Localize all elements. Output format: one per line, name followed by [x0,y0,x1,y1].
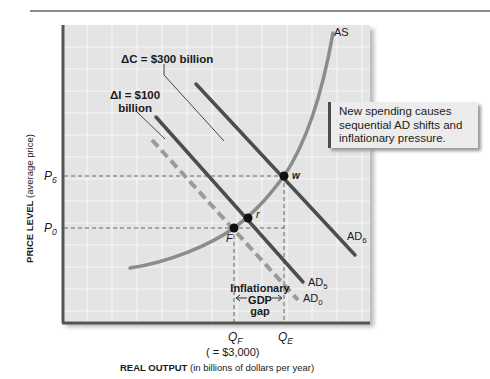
x-axis-title: REAL OUTPUT (in billions of dollars per … [120,362,314,373]
point-r [244,214,253,223]
y-tick-p0: P0 [44,221,57,237]
inflationary-gap-label: Inflationary GDP gap [228,283,292,318]
delta-i-annotation: ΔI = $100 billion [110,89,160,115]
point-w-label: w [292,170,300,181]
ad5-label: AD5 [308,276,328,291]
x-tick-qf-value: ( = $3,000) [206,346,260,358]
point-w [280,172,289,181]
ad0-curve [152,140,298,300]
x-tick-qe: QE [278,330,293,346]
ad6-label: AD6 [347,230,367,245]
x-tick-qf: QF [228,330,243,346]
plot-graphics [0,0,490,379]
explanation-callout: New spending causes sequential AD shifts… [328,102,478,148]
y-axis-title: PRICE LEVEL (average price) [24,119,35,279]
as-label: AS [334,26,349,38]
point-f-label: F [226,232,233,244]
delta-c-annotation: ΔC = $300 billion [121,53,213,65]
point-r-label: r [256,208,260,220]
y-tick-p6: P6 [44,169,57,185]
ad0-label: AD0 [303,292,323,307]
